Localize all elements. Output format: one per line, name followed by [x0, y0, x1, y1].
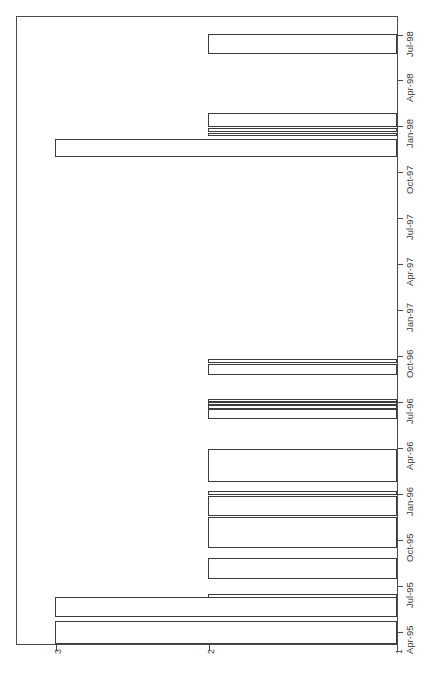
bar — [208, 34, 397, 54]
bar — [208, 491, 397, 495]
bar — [208, 409, 397, 419]
time-axis-label: Jul-95 — [404, 582, 415, 608]
time-axis-tick — [398, 264, 403, 265]
bar — [208, 364, 397, 375]
bar — [208, 496, 397, 516]
bar — [208, 359, 397, 363]
time-axis-label: Jul-97 — [404, 214, 415, 240]
bar — [55, 597, 397, 617]
time-axis-tick — [398, 448, 403, 449]
value-axis-label: 1 — [394, 649, 404, 654]
chart-canvas: 321 Jul-98Apr-98Jan-98Oct-97Jul-97Apr-97… — [0, 0, 435, 675]
plot-area — [16, 16, 398, 645]
time-axis-label: Jan-97 — [404, 303, 415, 332]
time-axis-label: Jul-98 — [404, 31, 415, 57]
time-axis-tick — [398, 126, 403, 127]
time-axis-label: Jan-96 — [404, 487, 415, 516]
bar — [208, 558, 397, 579]
time-axis-tick — [398, 402, 403, 403]
bar — [208, 133, 397, 136]
time-axis-label: Apr-96 — [404, 441, 415, 470]
bar — [208, 128, 397, 132]
time-axis-tick — [398, 80, 403, 81]
time-axis-label: Oct-95 — [404, 533, 415, 562]
time-axis-tick — [398, 35, 403, 36]
time-axis-tick — [398, 586, 403, 587]
bar — [55, 139, 397, 157]
bar — [208, 113, 397, 127]
time-axis-label: Apr-98 — [404, 73, 415, 102]
time-axis-label: Jul-96 — [404, 398, 415, 424]
time-axis-tick — [398, 540, 403, 541]
value-axis-label: 3 — [53, 649, 63, 654]
bar — [208, 449, 397, 482]
time-axis-tick — [398, 218, 403, 219]
time-axis-tick — [398, 356, 403, 357]
time-axis-tick — [398, 494, 403, 495]
time-axis-tick — [398, 172, 403, 173]
time-axis-label: Oct-97 — [404, 165, 415, 194]
bar — [208, 517, 397, 548]
time-axis-label: Oct-96 — [404, 349, 415, 378]
time-axis-label: Apr-97 — [404, 257, 415, 286]
value-axis-label: 2 — [206, 649, 216, 654]
time-axis-label: Apr-95 — [404, 625, 415, 654]
time-axis-tick — [398, 632, 403, 633]
time-axis-label: Jan-98 — [404, 119, 415, 148]
time-axis-tick — [398, 310, 403, 311]
bar — [55, 621, 397, 644]
